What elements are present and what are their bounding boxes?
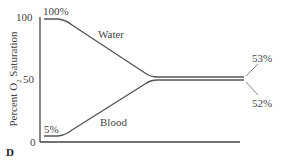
- water-start-label: 100%: [43, 6, 69, 17]
- blood-start-label: 5%: [44, 124, 59, 135]
- water-line: [44, 19, 244, 77]
- panel-label: D: [6, 146, 14, 158]
- tick-50: 50: [23, 74, 34, 85]
- oxygen-saturation-chart: 100 50 0 Percent O2 Saturation 100% Wate…: [0, 0, 282, 161]
- water-series-label: Water: [98, 29, 124, 40]
- leader-53: [246, 64, 258, 76]
- chart-plot: [0, 0, 282, 161]
- tick-100: 100: [16, 12, 33, 23]
- tick-0: 0: [30, 137, 36, 148]
- blood-end-label: 52%: [252, 98, 272, 109]
- water-end-label: 53%: [252, 53, 272, 64]
- y-axis-label: Percent O2 Saturation: [7, 37, 22, 127]
- blood-line: [44, 80, 244, 136]
- leader-52: [246, 82, 258, 95]
- blood-series-label: Blood: [100, 117, 127, 128]
